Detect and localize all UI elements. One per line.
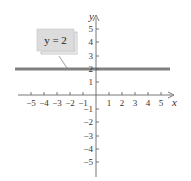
svg-text:5: 5 — [89, 24, 94, 34]
svg-text:2: 2 — [89, 64, 94, 74]
svg-text:−5: −5 — [26, 98, 36, 108]
x-axis-label: x — [171, 96, 177, 108]
svg-text:−2: −2 — [65, 98, 75, 108]
svg-text:−1: −1 — [83, 104, 93, 114]
x-tick-labels: −5 −4 −3 −2 −1 1 2 3 4 5 — [26, 98, 164, 108]
svg-text:2: 2 — [120, 98, 125, 108]
svg-text:−2: −2 — [83, 117, 93, 127]
svg-text:4: 4 — [89, 37, 94, 47]
y-ticks — [96, 29, 99, 162]
y-axis-label: y — [88, 10, 94, 22]
svg-text:−4: −4 — [39, 98, 49, 108]
svg-text:1: 1 — [107, 98, 112, 108]
svg-text:−5: −5 — [83, 157, 93, 167]
svg-text:3: 3 — [89, 51, 94, 61]
equation-label: y = 2 — [44, 34, 67, 46]
svg-text:4: 4 — [146, 98, 151, 108]
svg-text:3: 3 — [133, 98, 138, 108]
svg-text:5: 5 — [159, 98, 164, 108]
svg-text:−3: −3 — [52, 98, 62, 108]
equation-callout: y = 2 — [37, 29, 77, 54]
coordinate-plane: −5 −4 −3 −2 −1 1 2 3 4 5 5 4 3 2 1 −1 −2… — [0, 0, 191, 181]
svg-text:1: 1 — [89, 77, 94, 87]
svg-text:−4: −4 — [83, 144, 93, 154]
callout-leader-line — [59, 56, 67, 68]
svg-text:−3: −3 — [83, 131, 93, 141]
y-tick-labels: 5 4 3 2 1 −1 −2 −3 −4 −5 — [83, 24, 93, 167]
